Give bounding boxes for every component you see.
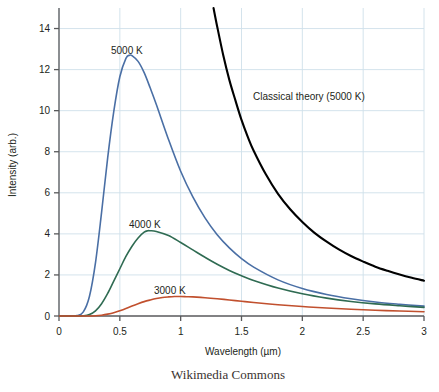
x-tick-label: 3 [421,326,427,337]
x-tick-label: 1.5 [235,326,249,337]
x-axis-title: Wavelength (µm) [205,346,281,357]
x-tick-label: 0.5 [113,326,127,337]
x-tick-label: 2.5 [356,326,370,337]
blackbody-radiation-figure: 02468101214 00.511.522.53 5000 K 4000 K … [0,0,439,392]
x-tick-label: 1 [178,326,184,337]
x-tick-label: 2 [300,326,306,337]
y-tick-label: 12 [39,64,51,75]
label-classical-theory: Classical theory (5000 K) [253,91,365,102]
y-tick-label: 0 [44,311,50,322]
figure-background [0,0,439,392]
y-tick-label: 2 [44,269,50,280]
label-3000k: 3000 K [154,285,186,296]
figure-caption: Wikimedia Commons [171,367,285,382]
y-tick-label: 4 [44,228,50,239]
label-4000k: 4000 K [129,219,161,230]
label-5000k: 5000 K [111,45,143,56]
y-tick-label: 6 [44,187,50,198]
chart-svg: 02468101214 00.511.522.53 5000 K 4000 K … [0,0,439,392]
x-tick-label: 0 [56,326,62,337]
y-axis-title: Intensity (arb.) [7,133,18,197]
y-tick-label: 8 [44,146,50,157]
y-tick-label: 10 [39,105,51,116]
y-tick-label: 14 [39,23,51,34]
